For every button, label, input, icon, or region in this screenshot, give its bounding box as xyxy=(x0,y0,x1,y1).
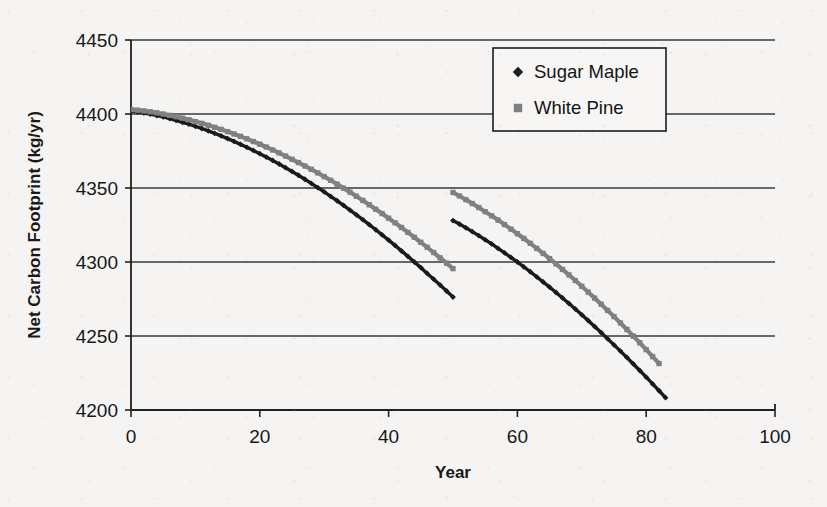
net-carbon-footprint-line-chart: 420042504300435044004450 020406080100 Ye… xyxy=(0,0,827,507)
x-axis-ticks xyxy=(131,410,775,417)
series-white-pine xyxy=(128,107,661,366)
y-tick-label: 4300 xyxy=(76,252,118,273)
y-axis-tick-labels: 420042504300435044004450 xyxy=(76,30,118,421)
x-tick-label: 80 xyxy=(636,426,657,447)
x-tick-label: 20 xyxy=(249,426,270,447)
y-tick-label: 4450 xyxy=(76,30,118,51)
chart-figure: 420042504300435044004450 020406080100 Ye… xyxy=(0,0,827,507)
data-series-layer xyxy=(128,107,668,401)
legend-label: Sugar Maple xyxy=(534,61,639,82)
x-tick-label: 0 xyxy=(126,426,137,447)
square-marker-icon xyxy=(514,104,522,112)
x-axis-title: Year xyxy=(435,463,471,482)
x-tick-label: 40 xyxy=(378,426,399,447)
y-tick-label: 4400 xyxy=(76,104,118,125)
gridlines xyxy=(131,40,775,336)
y-tick-label: 4250 xyxy=(76,326,118,347)
y-tick-label: 4350 xyxy=(76,178,118,199)
x-tick-label: 100 xyxy=(759,426,791,447)
series-sugar-maple xyxy=(128,108,668,400)
x-tick-label: 60 xyxy=(507,426,528,447)
x-axis-tick-labels: 020406080100 xyxy=(126,426,791,447)
chart-legend: Sugar MapleWhite Pine xyxy=(493,48,666,131)
y-tick-label: 4200 xyxy=(76,400,118,421)
y-axis-title: Net Carbon Footprint (kg/yr) xyxy=(25,111,44,339)
legend-label: White Pine xyxy=(534,97,623,118)
